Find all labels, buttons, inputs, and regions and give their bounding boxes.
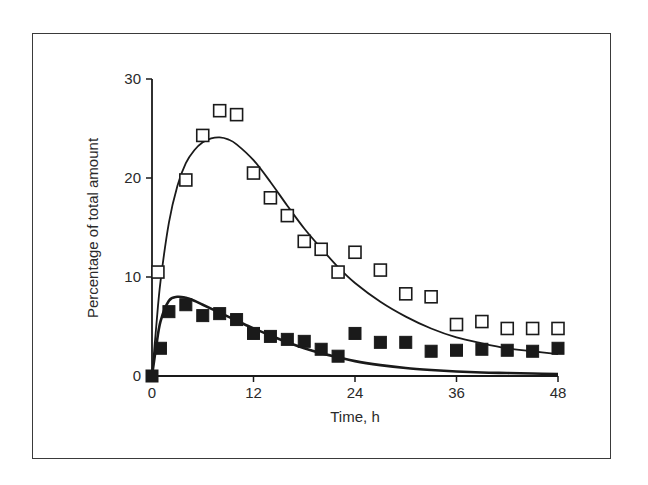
y-tick-label: 30: [124, 70, 141, 87]
x-tick-label: 48: [550, 384, 567, 401]
y-tick-label: 20: [124, 169, 141, 186]
filled-square-point: [281, 333, 293, 345]
filled-square-point: [425, 345, 437, 357]
x-tick-label: 0: [148, 384, 156, 401]
axes: 0102030012243648: [124, 70, 566, 401]
filled-square-point: [231, 314, 243, 326]
open-square-point: [425, 291, 437, 303]
x-tick-label: 12: [245, 384, 262, 401]
open-square-point: [152, 266, 164, 278]
open-square-point: [527, 322, 539, 334]
y-axis-title: Percentage of total amount: [84, 137, 101, 318]
filled-square-point: [154, 342, 166, 354]
filled-square-point: [374, 336, 386, 348]
open-square-point: [501, 322, 513, 334]
filled-square-point: [552, 342, 564, 354]
filled-square-point: [315, 343, 327, 355]
open-square-point: [349, 246, 361, 258]
open-square-point: [332, 266, 344, 278]
filled-square-point: [332, 350, 344, 362]
open-square-point: [197, 129, 209, 141]
data-points: [146, 105, 564, 382]
open-square-point: [298, 235, 310, 247]
chart-plot: 0102030012243648 Time, h Percentage of t…: [0, 0, 648, 485]
y-tick-label: 0: [133, 367, 141, 384]
filled-square-point: [476, 343, 488, 355]
filled-square-point: [451, 344, 463, 356]
filled-square-point: [527, 345, 539, 357]
open-square-point: [214, 105, 226, 117]
open-square-point: [315, 243, 327, 255]
filled-square-point: [180, 299, 192, 311]
open-square-point: [374, 264, 386, 276]
open-square-point: [180, 174, 192, 186]
filled-square-point: [349, 327, 361, 339]
x-axis-title: Time, h: [330, 408, 379, 425]
open-square-point: [400, 288, 412, 300]
open-square-point: [248, 167, 260, 179]
filled-square-point: [146, 370, 158, 382]
filled-square-point: [214, 308, 226, 320]
filled-square-point: [248, 327, 260, 339]
filled-square-point: [400, 336, 412, 348]
filled-square-point: [298, 335, 310, 347]
open-square-point: [552, 322, 564, 334]
filled-square-point: [163, 306, 175, 318]
x-tick-label: 24: [347, 384, 364, 401]
x-tick-label: 36: [448, 384, 465, 401]
open-square-point: [281, 210, 293, 222]
y-tick-label: 10: [124, 268, 141, 285]
filled-square-point: [197, 310, 209, 322]
open-square-point: [264, 192, 276, 204]
filled-square-point: [501, 344, 513, 356]
open-square-point: [451, 319, 463, 331]
open-square-point: [231, 109, 243, 121]
open-square-point: [476, 316, 488, 328]
filled-square-point: [264, 330, 276, 342]
